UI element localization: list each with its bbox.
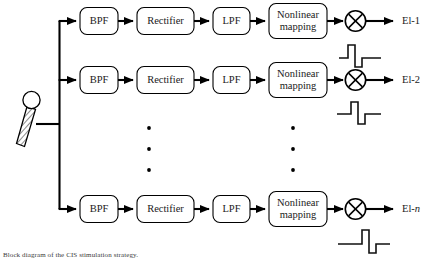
block-bpf-n: BPF <box>80 196 118 223</box>
pulse-carrier-1 <box>339 45 381 67</box>
block-diagram-figure: BPF Rectifier LPF Nonlinear mapping <box>0 0 445 267</box>
diagram-canvas: BPF Rectifier LPF Nonlinear mapping <box>0 0 445 267</box>
block-rectifier-2: Rectifier <box>137 67 194 94</box>
output-label-el-1: El-1 <box>402 15 420 26</box>
output-label-el-n: El-n <box>402 203 420 214</box>
block-lpf-2: LPF <box>213 67 250 94</box>
block-label: Rectifier <box>147 74 184 85</box>
ellipsis-column-right <box>291 126 295 172</box>
block-label-line2: mapping <box>280 80 317 91</box>
block-bpf-2: BPF <box>80 67 118 94</box>
block-label: LPF <box>222 203 240 214</box>
block-nonlinear-mapping-n: Nonlinear mapping <box>269 192 327 227</box>
block-label: Rectifier <box>147 203 184 214</box>
source-bus <box>36 21 60 209</box>
block-label: BPF <box>90 15 109 26</box>
block-rectifier-n: Rectifier <box>137 196 194 223</box>
block-label-line1: Nonlinear <box>277 68 319 79</box>
block-nonlinear-mapping-1: Nonlinear mapping <box>269 4 327 39</box>
output-label-el-2: El-2 <box>402 74 420 85</box>
block-lpf-1: LPF <box>213 8 250 35</box>
channel-row-2: BPF Rectifier LPF Nonlinear mapping <box>59 63 393 125</box>
microphone-icon <box>17 91 41 146</box>
block-label-line2: mapping <box>280 21 317 32</box>
pulse-carrier-n <box>338 230 390 253</box>
block-bpf-1: BPF <box>80 8 118 35</box>
block-label-line1: Nonlinear <box>277 9 319 20</box>
block-label: LPF <box>222 74 240 85</box>
ellipsis-column-left <box>147 126 151 172</box>
block-label: LPF <box>222 15 240 26</box>
channel-row-n: BPF Rectifier LPF Nonlinear mapping <box>59 192 393 254</box>
multiplier-1 <box>345 11 365 31</box>
pulse-carrier-2 <box>337 102 381 124</box>
block-label: BPF <box>90 203 109 214</box>
block-nonlinear-mapping-2: Nonlinear mapping <box>269 63 327 98</box>
figure-caption: Block diagram of the CIS stimulation str… <box>3 251 138 259</box>
channel-row-1: BPF Rectifier LPF Nonlinear mapping <box>59 4 393 68</box>
block-label: BPF <box>90 74 109 85</box>
block-lpf-n: LPF <box>213 196 250 223</box>
multiplier-n <box>345 199 365 219</box>
multiplier-2 <box>345 70 365 90</box>
block-rectifier-1: Rectifier <box>137 8 194 35</box>
block-label: Rectifier <box>147 15 184 26</box>
block-label-line2: mapping <box>280 209 317 220</box>
block-label-line1: Nonlinear <box>277 197 319 208</box>
